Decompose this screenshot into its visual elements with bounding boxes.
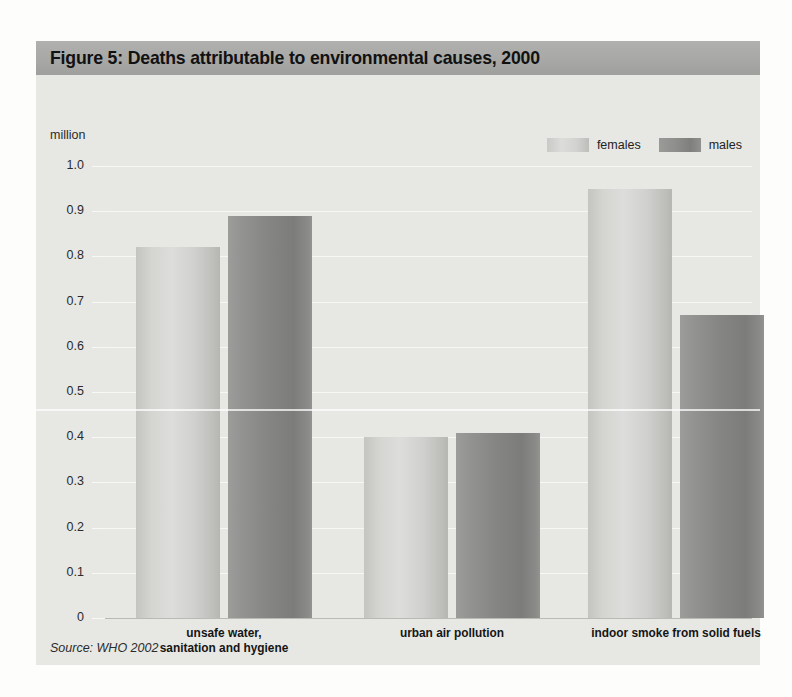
page-title: Figure 5: Deaths attributable to environ… — [50, 47, 540, 69]
bar-males-2 — [680, 315, 764, 618]
x-axis-label-2: indoor smoke from solid fuels — [562, 626, 790, 641]
bar-males-1 — [456, 433, 540, 618]
bar-females-0 — [136, 247, 220, 618]
bar-females-1 — [364, 437, 448, 618]
bar-females-2 — [588, 189, 672, 618]
plot-area: million females males 1.00.90.80.70.60.5… — [36, 75, 760, 665]
x-axis-label-1: urban air pollution — [338, 626, 566, 641]
bars-layer — [36, 75, 760, 665]
chart-canvas: 1.00.90.80.70.60.50.40.30.20.10 — [36, 75, 760, 665]
source-note: Source: WHO 2002 — [50, 641, 158, 655]
x-axis-label-line: sanitation and hygiene — [160, 641, 289, 655]
x-axis-label-line: unsafe water, — [186, 626, 261, 640]
bar-males-0 — [228, 216, 312, 618]
x-axis-label-line: indoor smoke from solid fuels — [591, 626, 761, 640]
figure-panel: Figure 5: Deaths attributable to environ… — [36, 41, 760, 665]
figure-title-band: Figure 5: Deaths attributable to environ… — [36, 41, 760, 75]
x-axis-label-line: urban air pollution — [400, 626, 504, 640]
